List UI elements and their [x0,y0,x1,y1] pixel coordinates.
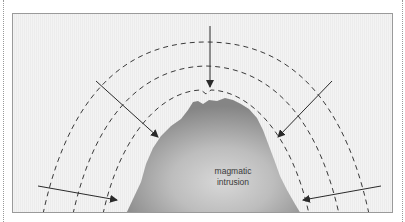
intrusion-label: magmatic intrusion [203,166,263,188]
intrusion-label-line2: intrusion [203,177,263,188]
right-dotted-rule [402,0,403,222]
intrusion-label-line1: magmatic [203,166,263,177]
left-dotted-rule [3,0,4,222]
diagram-panel: magmatic intrusion [12,13,393,213]
